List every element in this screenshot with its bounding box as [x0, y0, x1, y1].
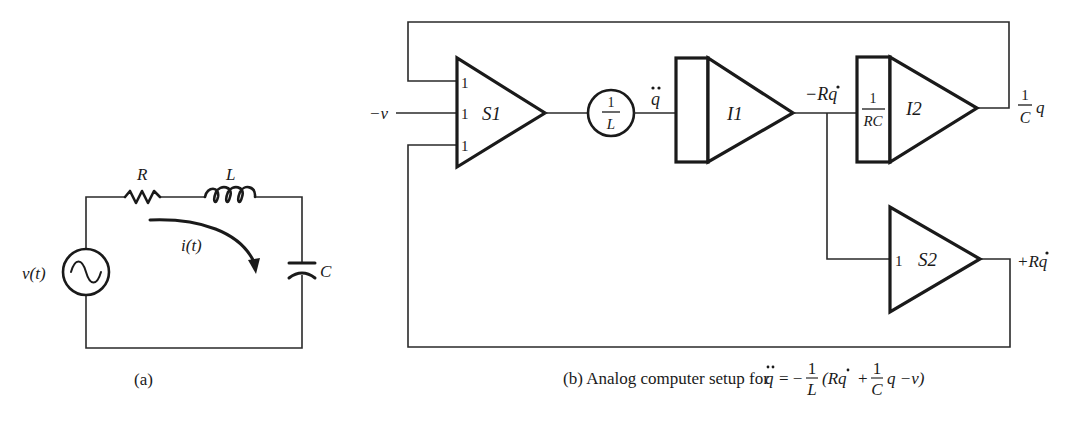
- pos-rqdot-label: +Rq: [1017, 252, 1048, 271]
- s2-gain: 1: [895, 253, 903, 269]
- i2-gain-denominator: RC: [862, 113, 883, 129]
- inductor-label: L: [225, 165, 235, 184]
- eq-rqdot-dot: [847, 369, 850, 372]
- integrator-i1-icon: [708, 58, 793, 162]
- neg-rqdot-dot: [836, 85, 839, 88]
- output-q-denominator: C: [1020, 109, 1031, 126]
- eq-lhs-dot-2: [772, 366, 775, 369]
- i2-gain-numerator: 1: [870, 91, 877, 106]
- output-q-variable: q: [1036, 98, 1045, 117]
- resistor-icon: [125, 191, 160, 203]
- eq-frac1-den: L: [806, 380, 816, 399]
- sine-wave-icon: [71, 262, 101, 283]
- caption-a: (a): [134, 370, 153, 389]
- s1-gain-2: 1: [461, 106, 469, 122]
- equation-equals: = −: [779, 369, 802, 388]
- integrator-i2-icon: [890, 57, 977, 162]
- current-arrow-icon: [150, 220, 254, 262]
- s1-gain-1: 1: [461, 75, 469, 91]
- integrator-i2-label: I2: [905, 98, 922, 119]
- integrator-i1-box: [676, 58, 708, 162]
- caption-b: (b) Analog computer setup for q = − 1 L …: [563, 359, 925, 399]
- pot-numerator: 1: [608, 95, 615, 110]
- s1-gain-3: 1: [461, 138, 469, 154]
- equation-lhs: q: [765, 369, 774, 388]
- eq-lhs-dot-1: [767, 366, 770, 369]
- figure-canvas: v(t) R L C i(t) (a) −v 1 1 1 S1: [0, 0, 1077, 421]
- eq-frac1-num: 1: [808, 359, 817, 378]
- capacitor-label: C: [320, 262, 332, 281]
- circuit-wire-bottom: [86, 275, 302, 348]
- qddot-label: q: [651, 89, 660, 109]
- source-label: v(t): [22, 264, 46, 283]
- caption-b-prefix: (b) Analog computer setup for: [563, 369, 769, 388]
- circuit-wire-right: [255, 197, 302, 262]
- input-label: −v: [369, 104, 388, 123]
- integrator-i1-label: I1: [726, 103, 743, 124]
- pot-denominator: L: [606, 116, 615, 132]
- analog-computer-diagram: −v 1 1 1 S1 1 L q I1 −Rq 1 RC: [369, 22, 1049, 399]
- pos-rqdot-dot: [1045, 251, 1048, 254]
- current-arrowhead-icon: [248, 258, 260, 274]
- eq-paren-open: (Rq: [822, 369, 847, 388]
- output-q-numerator: 1: [1021, 87, 1029, 103]
- qddot-dot-2: [657, 86, 660, 89]
- qddot-dot-1: [651, 86, 654, 89]
- summer-s1-icon: [457, 58, 545, 167]
- inductor-icon: [205, 187, 255, 202]
- circuit-wire-left-top: [86, 197, 125, 249]
- eq-tail: q −v): [887, 369, 925, 388]
- neg-rqdot-label: −Rq: [805, 84, 837, 104]
- resistor-label: R: [136, 165, 148, 184]
- eq-frac2-num: 1: [873, 359, 882, 378]
- eq-plus: +: [858, 369, 868, 388]
- summer-s1-label: S1: [482, 103, 501, 124]
- current-label: i(t): [181, 236, 202, 255]
- rlc-circuit: v(t) R L C i(t) (a): [22, 165, 332, 389]
- summer-s2-label: S2: [918, 249, 938, 270]
- eq-frac2-den: C: [871, 380, 883, 399]
